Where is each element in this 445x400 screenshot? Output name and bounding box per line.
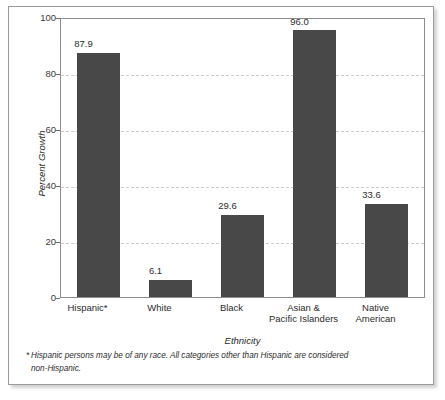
bar-white[interactable] [149, 280, 192, 297]
x-tick-label-black: Black [192, 302, 271, 313]
x-axis-title: Ethnicity [60, 335, 425, 346]
bar-value-asian-pacific: 96.0 [272, 17, 327, 27]
y-tick-mark-0 [55, 298, 60, 299]
y-tick-label-60: 60 [16, 125, 56, 135]
bar-value-native-american: 33.6 [344, 190, 399, 200]
x-tick-label-white: White [120, 302, 199, 313]
x-tick-label-native-american-line2: American [336, 313, 415, 324]
bar-value-black: 29.6 [200, 201, 255, 211]
x-tick-label-native-american-line1: Native [336, 302, 415, 313]
y-tick-label-40: 40 [16, 181, 56, 191]
bar-value-white: 6.1 [128, 266, 183, 276]
footnote: * Hispanic persons may be of any race. A… [26, 350, 356, 375]
x-tick-label-black-line1: Black [192, 302, 271, 313]
x-tick-label-hispanic: Hispanic* [48, 302, 127, 313]
x-tick-label-native-american: Native American [336, 302, 415, 324]
footnote-marker: * [26, 350, 29, 363]
bar-chart: Percent Growth 100 80 60 40 20 0 87.9 6.… [0, 0, 445, 400]
footnote-text: Hispanic persons may be of any race. All… [26, 350, 356, 375]
x-tick-label-hispanic-line1: Hispanic* [48, 302, 127, 313]
plot-area [60, 18, 425, 298]
y-tick-label-20: 20 [16, 237, 56, 247]
bar-value-hispanic: 87.9 [56, 39, 111, 49]
x-tick-label-asian-pacific-line1: Asian & [264, 302, 343, 313]
x-tick-label-asian-pacific: Asian & Pacific Islanders [264, 302, 343, 324]
x-tick-label-white-line1: White [120, 302, 199, 313]
bar-black[interactable] [221, 215, 264, 297]
bar-native-american[interactable] [365, 204, 408, 297]
y-tick-label-100: 100 [16, 13, 56, 23]
x-tick-label-asian-pacific-line2: Pacific Islanders [264, 313, 343, 324]
bar-asian-pacific[interactable] [293, 30, 336, 297]
bar-hispanic[interactable] [77, 53, 120, 297]
y-tick-label-80: 80 [16, 69, 56, 79]
